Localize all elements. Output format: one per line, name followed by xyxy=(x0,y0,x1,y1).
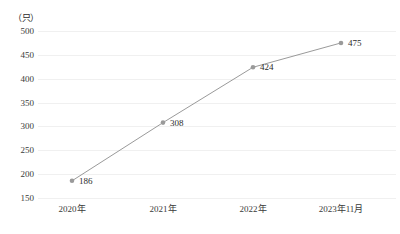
data-point-marker xyxy=(251,65,256,70)
line-chart: （只） 500450400350300250200150 2020年2021年2… xyxy=(0,0,400,234)
series-line xyxy=(72,43,341,181)
data-point-label: 475 xyxy=(348,38,362,48)
data-point-marker xyxy=(70,179,75,184)
series-layer xyxy=(0,0,400,234)
data-point-marker xyxy=(339,41,344,46)
data-point-marker xyxy=(161,120,166,125)
data-point-label: 424 xyxy=(260,62,274,72)
data-point-label: 186 xyxy=(79,176,93,186)
data-point-label: 308 xyxy=(170,118,184,128)
